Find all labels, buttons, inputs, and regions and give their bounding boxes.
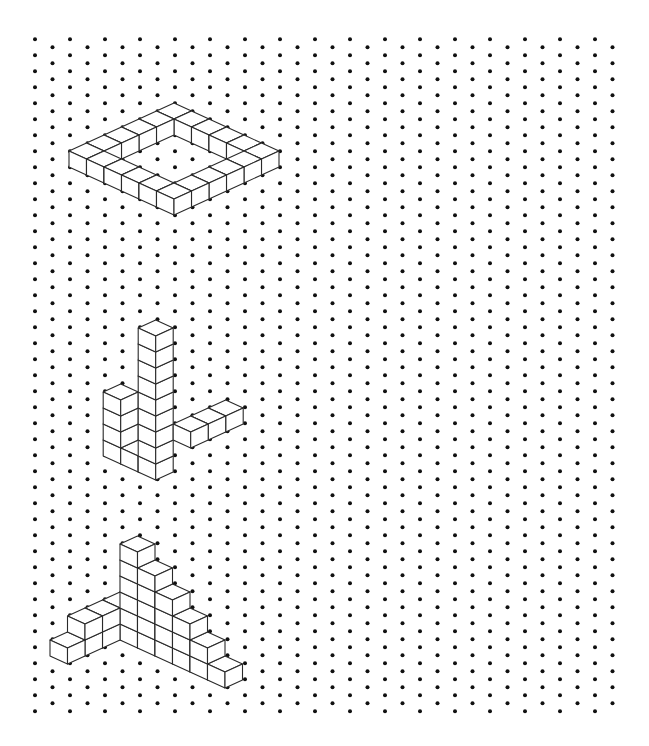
- grid-dot: [121, 685, 125, 689]
- grid-dot: [348, 677, 352, 681]
- grid-dot: [471, 557, 475, 561]
- grid-dot: [611, 653, 615, 657]
- grid-dot: [436, 189, 440, 193]
- grid-dot: [103, 197, 107, 201]
- grid-dot: [541, 589, 545, 593]
- grid-dot: [401, 669, 405, 673]
- grid-dot: [488, 325, 492, 329]
- grid-dot: [331, 333, 335, 337]
- grid-dot: [68, 565, 72, 569]
- grid-dot: [138, 501, 142, 505]
- grid-dot: [418, 341, 422, 345]
- grid-dot: [226, 701, 230, 705]
- grid-dot: [348, 149, 352, 153]
- grid-dot: [418, 645, 422, 649]
- grid-dot: [453, 645, 457, 649]
- grid-dot: [418, 149, 422, 153]
- grid-dot: [208, 613, 212, 617]
- grid-dot: [243, 469, 247, 473]
- grid-dot: [138, 53, 142, 57]
- grid-dot: [523, 197, 527, 201]
- grid-dot: [401, 253, 405, 257]
- grid-dot: [436, 269, 440, 273]
- grid-dot: [348, 85, 352, 89]
- grid-dot: [576, 509, 580, 513]
- grid-dot: [243, 565, 247, 569]
- grid-dot: [243, 117, 247, 121]
- grid-dot: [418, 421, 422, 425]
- grid-dot: [471, 461, 475, 465]
- grid-dot: [383, 85, 387, 89]
- grid-dot: [226, 477, 230, 481]
- grid-dot: [471, 413, 475, 417]
- grid-dot: [68, 405, 72, 409]
- grid-dot: [86, 189, 90, 193]
- grid-dot: [313, 533, 317, 537]
- grid-dot: [261, 541, 265, 545]
- grid-dot: [471, 109, 475, 113]
- grid-dot: [68, 101, 72, 105]
- grid-dot: [313, 245, 317, 249]
- grid-dot: [593, 437, 597, 441]
- grid-dot: [611, 45, 615, 49]
- grid-dot: [593, 421, 597, 425]
- grid-dot: [541, 413, 545, 417]
- grid-dot: [296, 317, 300, 321]
- grid-dot: [313, 325, 317, 329]
- grid-dot: [366, 365, 370, 369]
- grid-dot: [593, 629, 597, 633]
- grid-dot: [348, 549, 352, 553]
- grid-dot: [348, 341, 352, 345]
- grid-dot: [453, 341, 457, 345]
- grid-dot: [558, 69, 562, 73]
- grid-dot: [173, 501, 177, 505]
- grid-dot: [541, 637, 545, 641]
- grid-dot: [348, 133, 352, 137]
- grid-dot: [506, 685, 510, 689]
- grid-dot: [418, 549, 422, 553]
- grid-dot: [86, 557, 90, 561]
- grid-dot: [558, 357, 562, 361]
- grid-dot: [366, 221, 370, 225]
- grid-dot: [208, 245, 212, 249]
- grid-dot: [86, 301, 90, 305]
- grid-dot: [51, 77, 55, 81]
- grid-dot: [156, 221, 160, 225]
- grid-dot: [576, 221, 580, 225]
- grid-dot: [191, 381, 195, 385]
- grid-dot: [418, 37, 422, 41]
- grid-dot: [278, 501, 282, 505]
- grid-dot: [51, 429, 55, 433]
- grid-dot: [593, 373, 597, 377]
- grid-dot: [523, 629, 527, 633]
- grid-dot: [156, 45, 160, 49]
- grid-dot: [436, 45, 440, 49]
- grid-dot: [541, 493, 545, 497]
- grid-dot: [453, 453, 457, 457]
- grid-dot: [418, 517, 422, 521]
- grid-dot: [576, 205, 580, 209]
- grid-dot: [331, 253, 335, 257]
- grid-dot: [453, 661, 457, 665]
- grid-dot: [383, 373, 387, 377]
- grid-dot: [436, 637, 440, 641]
- grid-dot: [453, 53, 457, 57]
- grid-dot: [401, 605, 405, 609]
- grid-dot: [488, 549, 492, 553]
- grid-dot: [366, 397, 370, 401]
- grid-dot: [611, 509, 615, 513]
- grid-dot: [226, 285, 230, 289]
- grid-dot: [383, 101, 387, 105]
- grid-dot: [86, 669, 90, 673]
- grid-dot: [243, 581, 247, 585]
- grid-dot: [313, 549, 317, 553]
- grid-dot: [523, 693, 527, 697]
- grid-dot: [243, 293, 247, 297]
- grid-dot: [261, 77, 265, 81]
- grid-dot: [86, 445, 90, 449]
- grid-dot: [488, 181, 492, 185]
- grid-dot: [541, 157, 545, 161]
- grid-dot: [471, 381, 475, 385]
- grid-dot: [103, 357, 107, 361]
- grid-dot: [261, 685, 265, 689]
